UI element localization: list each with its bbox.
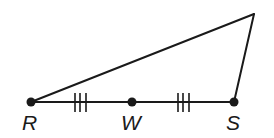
point-r bbox=[27, 98, 36, 107]
segment-r-apex bbox=[31, 14, 254, 102]
point-s bbox=[230, 98, 239, 107]
label-w: W bbox=[121, 112, 141, 133]
label-r: R bbox=[22, 112, 37, 133]
label-s: S bbox=[226, 112, 240, 133]
point-w bbox=[128, 98, 137, 107]
segment-s-apex bbox=[234, 14, 254, 102]
